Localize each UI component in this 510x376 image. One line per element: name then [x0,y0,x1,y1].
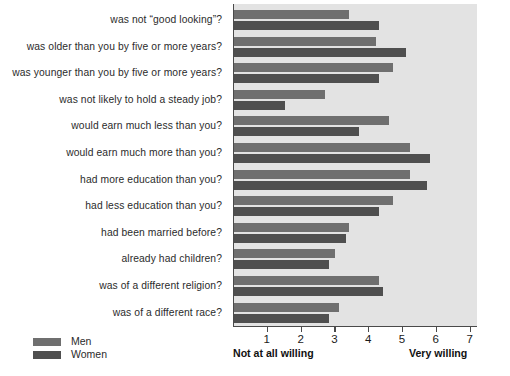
x-axis-tick-label: 4 [358,333,378,345]
axis-caption-max: Very willing [409,347,467,359]
x-axis-tick-label: 3 [324,333,344,345]
bar-men [234,170,410,179]
category-label: had been married before? [101,227,222,238]
x-axis-tick-label: 7 [460,333,480,345]
bar-women [234,287,383,296]
bar-women [234,21,379,30]
bar-men [234,116,389,125]
bar-men [234,276,379,285]
bar-men [234,63,393,72]
bar-men [234,249,335,258]
x-axis-tick [334,326,335,332]
x-axis-tick-label: 6 [426,333,446,345]
bar-women [234,181,427,190]
category-label: would earn much less than you? [71,120,222,131]
category-label: was younger than you by five or more yea… [12,67,222,78]
category-label: was of a different religion? [99,280,222,291]
bar-men [234,10,349,19]
category-label: was not likely to hold a steady job? [59,94,222,105]
x-axis-tick [301,326,302,332]
x-axis-tick [470,326,471,332]
horizontal-bar-chart: was not “good looking”?was older than yo… [0,0,510,376]
x-axis-tick [267,326,268,332]
x-axis-tick-label: 1 [257,333,277,345]
axis-caption-min: Not at all willing [233,347,314,359]
bar-women [234,154,430,163]
bar-women [234,127,359,136]
bar-women [234,314,329,323]
legend-label: Women [71,348,107,360]
x-axis-tick-label: 2 [291,333,311,345]
bar-men [234,143,410,152]
legend-label: Men [71,335,91,347]
bar-men [234,90,325,99]
category-label: was older than you by five or more years… [27,41,222,52]
category-label: was of a different race? [113,307,222,318]
category-labels: was not “good looking”?was older than yo… [0,0,228,330]
legend-swatch [33,338,61,346]
legend-swatch [33,351,61,359]
bar-women [234,234,346,243]
legend-item: Women [33,349,173,362]
x-axis-tick [402,326,403,332]
bar-men [234,223,349,232]
x-axis-line [233,326,477,327]
category-label: already had children? [121,253,222,264]
x-axis-tick [368,326,369,332]
bar-women [234,74,379,83]
bar-men [234,196,393,205]
category-label: was not “good looking”? [110,14,222,25]
bar-women [234,260,329,269]
plot-area [233,4,477,326]
category-label: had less education than you? [85,200,222,211]
bar-men [234,303,339,312]
x-axis-tick-label: 5 [392,333,412,345]
bar-women [234,101,285,110]
bar-women [234,48,406,57]
bar-men [234,37,376,46]
chart-legend: MenWomen [33,336,173,362]
bar-women [234,207,379,216]
category-label: had more education than you? [80,174,222,185]
category-label: would earn much more than you? [66,147,222,158]
x-axis-tick [436,326,437,332]
